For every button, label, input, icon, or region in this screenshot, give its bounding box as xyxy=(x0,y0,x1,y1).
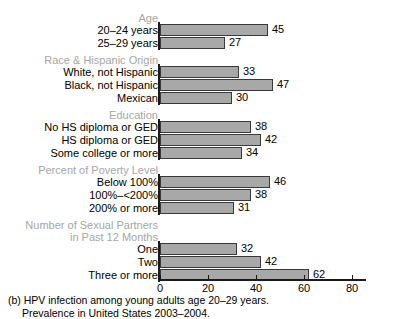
bar-value-label: 47 xyxy=(277,78,289,91)
category-label: 100%–<200% xyxy=(6,189,158,202)
group-header-3: Education xyxy=(0,109,158,121)
bar xyxy=(160,37,225,49)
bar xyxy=(160,134,261,146)
category-label: Below 100% xyxy=(6,176,158,189)
category-label: Two xyxy=(6,256,158,269)
bar-value-label: 33 xyxy=(243,65,255,78)
bar-value-label: 30 xyxy=(236,91,248,104)
bar xyxy=(160,66,239,78)
category-label: No HS diploma or GED xyxy=(6,121,158,134)
bar xyxy=(160,176,270,188)
category-label: One xyxy=(6,243,158,256)
y-axis-segment xyxy=(158,119,160,160)
y-axis-segment xyxy=(158,64,160,105)
x-axis-tick xyxy=(352,275,353,280)
x-axis-tick-label: 40 xyxy=(250,282,262,294)
x-axis-tick xyxy=(208,275,209,280)
x-axis-tick-label: 20 xyxy=(202,282,214,294)
category-label: Some college or more xyxy=(6,147,158,160)
x-axis-tick xyxy=(304,275,305,280)
caption-line-2: Prevalence in United States 2003–2004. xyxy=(8,307,394,319)
bar-row: White, not Hispanic33 xyxy=(0,66,396,79)
x-axis-tick xyxy=(160,275,161,280)
figure-hpv-prevalence-bar-chart: Age20–24 years4525–29 years27Race & Hisp… xyxy=(0,0,396,319)
bar-row: 20–24 years45 xyxy=(0,24,396,37)
bar-value-label: 46 xyxy=(274,175,286,188)
bar-value-label: 38 xyxy=(255,188,267,201)
bar xyxy=(160,24,268,36)
y-axis-segment xyxy=(158,174,160,215)
bar xyxy=(160,79,273,91)
bar-row: 200% or more31 xyxy=(0,202,396,215)
x-axis-tick-label: 80 xyxy=(346,282,358,294)
category-label: Three or more xyxy=(6,269,158,282)
group-header-5: Number of Sexual Partners xyxy=(0,219,158,231)
x-axis-line xyxy=(158,279,366,281)
x-axis-tick-label: 60 xyxy=(298,282,310,294)
bar-row: No HS diploma or GED38 xyxy=(0,121,396,134)
bar-row: One32 xyxy=(0,243,396,256)
bar xyxy=(160,243,237,255)
category-label: White, not Hispanic xyxy=(6,66,158,79)
category-label: 25–29 years xyxy=(6,37,158,50)
bar-value-label: 42 xyxy=(265,133,277,146)
bar xyxy=(160,92,232,104)
figure-caption: (b) HPV infection among young adults age… xyxy=(8,294,394,319)
bar xyxy=(160,256,261,268)
bar-row: Two42 xyxy=(0,256,396,269)
bar-row: Below 100%46 xyxy=(0,176,396,189)
bar xyxy=(160,189,251,201)
bar-value-label: 32 xyxy=(241,242,253,255)
bar xyxy=(160,202,234,214)
category-label: HS diploma or GED xyxy=(6,134,158,147)
category-label: Black, not Hispanic xyxy=(6,79,158,92)
y-axis-segment xyxy=(158,22,160,50)
bar-value-label: 42 xyxy=(265,255,277,268)
group-header-5: in Past 12 Months xyxy=(0,231,158,243)
bar-row: HS diploma or GED42 xyxy=(0,134,396,147)
x-axis-tick-label: 0 xyxy=(157,282,163,294)
category-label: 20–24 years xyxy=(6,24,158,37)
bar-row: 25–29 years27 xyxy=(0,37,396,50)
category-label: 200% or more xyxy=(6,202,158,215)
bar-row: Some college or more34 xyxy=(0,147,396,160)
caption-line-1: (b) HPV infection among young adults age… xyxy=(8,294,394,307)
bar-value-label: 27 xyxy=(229,36,241,49)
bar-value-label: 31 xyxy=(238,201,250,214)
bar-row: Mexican30 xyxy=(0,92,396,105)
bar-chart-plot-area: Age20–24 years4525–29 years27Race & Hisp… xyxy=(0,0,396,288)
group-header-2: Race & Hispanic Origin xyxy=(0,54,158,66)
bar-value-label: 45 xyxy=(272,23,284,36)
bar xyxy=(160,121,251,133)
x-axis-tick xyxy=(256,275,257,280)
bar-row: 100%–<200%38 xyxy=(0,189,396,202)
bar-value-label: 34 xyxy=(246,146,258,159)
category-label: Mexican xyxy=(6,92,158,105)
bar xyxy=(160,147,242,159)
bar-row: Black, not Hispanic47 xyxy=(0,79,396,92)
bar-value-label: 38 xyxy=(255,120,267,133)
group-header-1: Age xyxy=(0,12,158,24)
group-header-4: Percent of Poverty Level xyxy=(0,164,158,176)
